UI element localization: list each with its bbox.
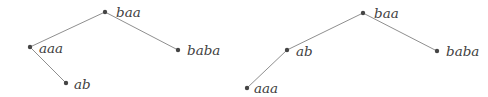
left-tree: baaaaababaab: [28, 4, 221, 92]
right-tree: baaabaaababa: [245, 5, 480, 96]
node-label: baa: [116, 4, 141, 20]
node-dot: [245, 86, 249, 90]
node-dot: [176, 48, 180, 52]
tree-diagrams-svg: baaaaababaabbaaabaaababa: [0, 0, 488, 97]
node-label: aaa: [39, 40, 63, 56]
node-dot: [64, 81, 68, 85]
node-label: ab: [74, 76, 91, 92]
diagram-canvas: baaaaababaabbaaabaaababa: [0, 0, 488, 97]
node-dot: [103, 10, 107, 14]
node-dot: [285, 48, 289, 52]
node-label: ab: [296, 43, 313, 59]
node-dot: [435, 49, 439, 53]
node-dot: [28, 45, 32, 49]
node-label: baa: [374, 5, 399, 21]
node-label: baba: [187, 42, 220, 58]
node-dot: [361, 11, 365, 15]
node-label: baba: [446, 43, 479, 59]
node-label: aaa: [254, 80, 278, 96]
